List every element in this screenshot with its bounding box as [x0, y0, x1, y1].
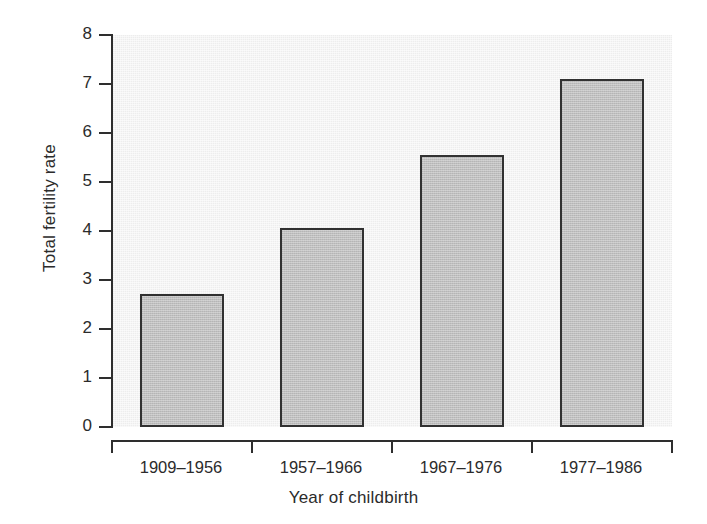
x-tick-mark-3 [531, 440, 533, 453]
y-tick-mark-2 [99, 328, 112, 330]
x-tick-mark-1 [251, 440, 253, 453]
y-tick-label-5: 5 [62, 171, 92, 191]
bar-chart-figure: Total fertility rate 8 7 6 5 4 3 2 1 0 1… [0, 0, 707, 524]
x-tick-mark-4 [671, 440, 673, 453]
x-tick-label-1909-1956: 1909–1956 [111, 458, 251, 477]
y-tick-label-1: 1 [62, 367, 92, 387]
x-axis-title: Year of childbirth [0, 488, 707, 508]
y-tick-mark-8 [99, 34, 112, 36]
x-tick-label-1967-1976: 1967–1976 [391, 458, 531, 477]
y-tick-mark-7 [99, 83, 112, 85]
y-tick-mark-0 [99, 426, 112, 428]
bar-1977-1986 [560, 79, 644, 427]
y-tick-mark-4 [99, 230, 112, 232]
y-tick-label-3: 3 [62, 269, 92, 289]
y-tick-label-7: 7 [62, 73, 92, 93]
bar-1909-1956 [140, 294, 224, 427]
y-tick-mark-3 [99, 279, 112, 281]
x-tick-mark-2 [391, 440, 393, 453]
bar-1967-1976 [420, 155, 504, 427]
y-tick-label-8: 8 [62, 24, 92, 44]
y-tick-label-4: 4 [62, 220, 92, 240]
y-tick-mark-1 [99, 377, 112, 379]
y-tick-mark-5 [99, 181, 112, 183]
x-tick-mark-0 [111, 440, 113, 453]
x-tick-label-1957-1966: 1957–1966 [251, 458, 391, 477]
y-tick-label-0: 0 [62, 416, 92, 436]
y-tick-label-6: 6 [62, 122, 92, 142]
y-axis-title: Total fertility rate [40, 88, 60, 328]
bar-1957-1966 [280, 228, 364, 427]
x-tick-label-1977-1986: 1977–1986 [531, 458, 671, 477]
y-tick-mark-6 [99, 132, 112, 134]
y-tick-label-2: 2 [62, 318, 92, 338]
